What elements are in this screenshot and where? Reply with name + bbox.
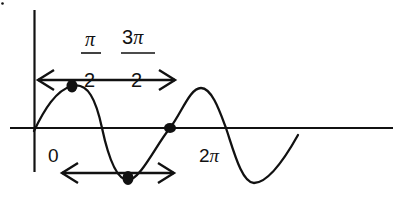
label-two-pi-sym: π bbox=[210, 145, 220, 166]
sine-diagram: π 2 3π 2 0 2π bbox=[0, 0, 418, 199]
min-point bbox=[123, 171, 134, 185]
label-pi-over-2-numerator: π bbox=[85, 29, 95, 49]
lower-double-arrow bbox=[62, 163, 174, 183]
label-two-pi-coef: 2 bbox=[199, 145, 210, 166]
graph-svg bbox=[0, 0, 418, 199]
label-two-pi: 2π bbox=[199, 146, 219, 165]
stray-dot bbox=[1, 2, 4, 5]
label-pi-over-2-denominator: 2 bbox=[84, 70, 95, 90]
label-3pi-over-2-numerator: 3π bbox=[122, 27, 143, 47]
upper-double-arrow bbox=[38, 70, 175, 90]
label-3pi-over-2-denominator: 2 bbox=[131, 70, 142, 90]
label-3pi-coef: 3 bbox=[122, 26, 133, 48]
max-point bbox=[67, 80, 78, 93]
zero-crossing-point bbox=[164, 123, 176, 133]
label-3pi-sym: π bbox=[133, 26, 143, 48]
label-origin-zero: 0 bbox=[48, 146, 59, 165]
